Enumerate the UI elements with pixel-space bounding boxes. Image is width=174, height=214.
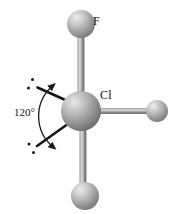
lone-pair-lower-left-dot-1	[28, 143, 31, 146]
angle-arc	[39, 86, 53, 147]
atom-label-chlorine: Cl	[100, 89, 112, 101]
lone-pair-upper-left-dot-1	[31, 78, 34, 81]
angle-label: 120°	[14, 107, 35, 118]
atom-sphere-chlorine-center	[61, 91, 101, 131]
lone-pair-lower-left-dot-2	[32, 151, 35, 154]
lone-pair-upper-left-dot-2	[27, 87, 30, 90]
atom-label-fluorine: F	[93, 15, 100, 27]
molecule-diagram-canvas: F Cl 120°	[0, 0, 174, 214]
atom-sphere-ligand-bottom	[71, 182, 99, 210]
atom-sphere-ligand-right	[146, 100, 168, 122]
atom-sphere-fluorine-top	[67, 10, 95, 38]
